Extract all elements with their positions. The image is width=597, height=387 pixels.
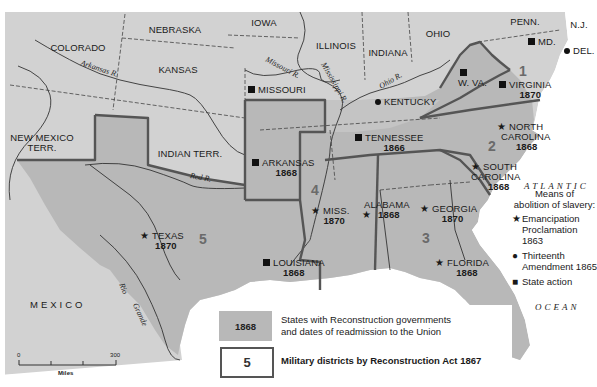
label-mexico: MEXICO xyxy=(30,300,85,310)
label-iowa: IOWA xyxy=(251,18,276,28)
label-illinois: ILLINOIS xyxy=(316,41,356,51)
label-louisiana: LOUISIANA1868 xyxy=(263,258,325,278)
district-4: 4 xyxy=(311,182,319,198)
label-indiana: INDIANA xyxy=(368,48,407,58)
star-icon: ★ xyxy=(311,206,320,216)
square-icon xyxy=(263,259,270,266)
district-3: 3 xyxy=(422,230,430,246)
square-icon: ■ xyxy=(512,276,522,287)
legend-district-text: Military districts by Reconstruction Act… xyxy=(281,355,481,367)
dot-icon xyxy=(375,99,381,105)
dot-icon: ● xyxy=(512,250,522,261)
star-icon: ★ xyxy=(140,231,149,241)
square-icon xyxy=(355,134,362,141)
square-icon xyxy=(460,69,467,76)
star-icon: ★ xyxy=(420,204,429,214)
label-west-virginia: W. VA. xyxy=(458,69,487,88)
square-icon xyxy=(528,38,535,45)
label-penn: PENN. xyxy=(510,17,540,27)
district-2: 2 xyxy=(488,138,496,154)
scale-start: 0 xyxy=(17,350,20,360)
label-nj: N.J. xyxy=(570,20,587,30)
district-1: 1 xyxy=(519,63,527,79)
label-arkansas: ARKANSAS1868 xyxy=(252,158,315,178)
dot-icon xyxy=(564,48,570,54)
legend-row-emancipation: ★ EmancipationProclamation 1863 xyxy=(512,213,597,246)
label-indian-terr: INDIAN TERR. xyxy=(158,149,222,159)
label-delaware: DEL. xyxy=(564,46,595,56)
ocean-label-ocean: OCEAN xyxy=(535,302,580,312)
label-georgia: ★GEORGIA1870 xyxy=(420,204,477,224)
label-north-carolina: ★NORTHCAROLINA1868 xyxy=(497,122,550,152)
legend-reconstruction-text: States with Reconstruction governmentsan… xyxy=(281,314,451,338)
legend-district-swatch: 5 xyxy=(220,347,274,378)
label-nebraska: NEBRASKA xyxy=(149,25,202,35)
district-5: 5 xyxy=(199,231,207,247)
label-colorado: COLORADO xyxy=(50,43,105,53)
legend-row-thirteenth: ● ThirteenthAmendment 1865 xyxy=(512,250,597,272)
scale-unit: Miles xyxy=(58,368,74,378)
legend-row-state-action: ■ State action xyxy=(512,276,597,287)
label-missouri: MISSOURI xyxy=(248,85,306,95)
label-florida: ★FLORIDA1868 xyxy=(435,258,489,278)
star-icon: ★ xyxy=(362,210,371,220)
star-icon: ★ xyxy=(512,213,522,224)
label-new-mexico-terr: NEW MEXICOTERR. xyxy=(10,133,73,153)
legend-reconstruction-swatch: 1868 xyxy=(219,311,272,341)
square-icon xyxy=(252,159,259,166)
scale-end: 300 xyxy=(110,350,120,360)
label-maryland: MD. xyxy=(528,37,556,47)
label-virginia: VIRGINIA1870 xyxy=(499,80,552,100)
legend-means-of-abolition: Means ofabolition of slavery: ★ Emancipa… xyxy=(512,188,597,291)
label-tennessee: TENNESSEE1866 xyxy=(355,133,423,153)
label-mississippi: ★MISS.1870 xyxy=(311,206,349,226)
square-icon xyxy=(248,86,255,93)
label-kentucky: KENTUCKY xyxy=(375,97,437,107)
star-icon: ★ xyxy=(435,258,444,268)
label-kansas: KANSAS xyxy=(158,65,197,75)
label-ohio: OHIO xyxy=(426,29,451,39)
label-texas: ★TEXAS1870 xyxy=(140,231,184,251)
legend-means-title: Means ofabolition of slavery: xyxy=(512,188,597,210)
label-alabama: ALABAMA★1868 xyxy=(362,200,410,220)
square-icon xyxy=(499,81,506,88)
scale-bar: 0 300 Miles xyxy=(14,350,124,380)
